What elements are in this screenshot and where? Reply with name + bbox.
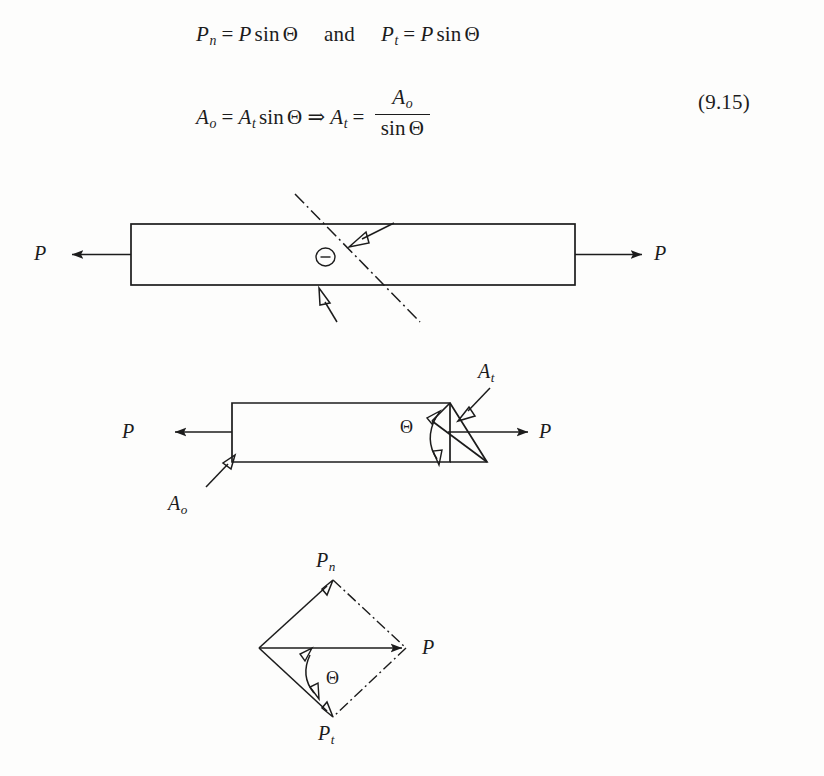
symbol-P-t-subscript: t [394,33,398,48]
sin-function-1: sin [255,22,280,46]
theta-symbol-3: Θ [287,105,302,129]
fraction-Ao-over-sin-theta: Ao sinΘ [375,86,430,140]
fraction-denominator: sinΘ [375,115,430,140]
area-label-inclined-subscript: t [491,370,495,385]
resultant-force-label-text: P [422,636,434,658]
equation-area-relation: Ao=AtsinΘ⇒At= Ao sinΘ [196,86,430,140]
symbol-A-t-subscript-2: t [344,116,348,131]
symbol-A-t-base-2: A [330,105,343,129]
area-label-inclined-base: A [478,360,490,382]
symbol-P-n-base: P [196,22,209,46]
symbol-P-rhs-2: P [420,22,433,46]
tangential-force-label-subscript: t [331,732,335,747]
symbol-A-o-base: A [196,105,209,129]
symbol-P-rhs-1: P [239,22,252,46]
force-label-right-1-text: P [654,242,666,264]
equals-sign: = [221,22,233,46]
tangential-force-label-base: P [318,722,330,744]
angle-label-2: Θ [400,417,413,438]
normal-force-label: Pn [316,549,335,575]
fraction-numerator: Ao [375,86,430,113]
force-label-left-1: P [34,242,46,265]
theta-symbol-1: Θ [283,22,298,46]
theta-symbol-2: Θ [465,22,480,46]
symbol-P-t-base: P [381,22,394,46]
sin-function-2: sin [436,22,461,46]
force-label-left-1-text: P [34,242,46,264]
equation-normal-tangential-forces: Pn=PsinΘandPt=PsinΘ [196,22,480,49]
equation-number: (9.15) [698,90,750,115]
equals-sign-4: = [353,105,365,129]
normal-force-label-base: P [316,549,328,571]
symbol-A-o-subscript: o [210,116,217,131]
conjunction-and: and [324,22,355,46]
sin-function-3: sin [259,105,284,129]
area-label-original-base: A [168,492,180,514]
sin-function-4: sin [381,116,406,140]
force-label-left-2: P [122,420,134,443]
equals-sign-3: = [221,105,233,129]
area-label-inclined: At [478,360,494,386]
force-label-left-2-text: P [122,420,134,442]
implies-arrow: ⇒ [307,105,325,129]
symbol-P-n-subscript: n [210,33,217,48]
equals-sign-2: = [403,22,415,46]
force-label-right-2: P [539,420,551,443]
angle-label-3: Θ [326,668,339,689]
symbol-A-t-base: A [239,105,252,129]
area-label-original: Ao [168,492,187,518]
symbol-A-t-subscript: t [252,116,256,131]
resultant-force-label: P [422,636,434,659]
area-label-original-subscript: o [181,502,188,517]
tangential-force-label: Pt [318,722,334,748]
symbol-A-numerator: A [392,85,405,109]
normal-force-label-subscript: n [329,559,336,574]
force-label-right-1: P [654,242,666,265]
force-label-right-2-text: P [539,420,551,442]
theta-symbol-4: Θ [409,116,424,140]
symbol-A-numerator-subscript: o [406,96,413,111]
